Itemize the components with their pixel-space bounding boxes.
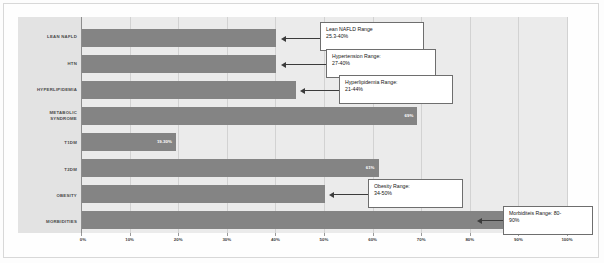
- tick-label-90: 90%: [514, 237, 523, 242]
- callout-hyperlipidemia-line2: 21-44%: [345, 86, 448, 93]
- bar-value-label-t2dm: 61%: [366, 159, 375, 177]
- tick-label-0: 0%: [80, 237, 86, 242]
- gridline-80: [470, 17, 471, 233]
- callout-lean-nafld[interactable]: Lean NAFLD Range 25.3-40%: [320, 22, 424, 51]
- tick-label-20: 20%: [174, 237, 183, 242]
- category-label-lean-nafld: LEAN NAFLD: [19, 34, 77, 40]
- bar-value-label-metabolic-syndrome: 69%: [405, 107, 414, 125]
- tick-50: [324, 233, 325, 236]
- tick-0: [81, 233, 82, 236]
- category-label-morbidities: MORBIDITIES: [19, 219, 77, 225]
- callout-obesity[interactable]: Obesity Range: 34-50%: [368, 179, 463, 208]
- plot-panel: LEAN NAFLD HTN HYPERLIPIDEMIA METABOLIC …: [18, 17, 567, 233]
- callout-morbidities-line1: Morbiditeis Range: 80-: [509, 210, 588, 217]
- category-label-hyperlipidemia: HYPERLIPIDEMIA: [19, 87, 77, 93]
- tick-60: [373, 233, 374, 236]
- category-label-obesity: OBESITY: [19, 193, 77, 199]
- leader-line-htn: [285, 64, 327, 65]
- tick-label-80: 80%: [465, 237, 474, 242]
- category-label-htn: HTN: [19, 61, 77, 67]
- callout-hypertension-line2: 27-40%: [332, 60, 431, 67]
- tick-label-40: 40%: [271, 237, 280, 242]
- bar-morbidities: [82, 211, 519, 229]
- tick-20: [178, 233, 179, 236]
- bar-value-label-t1dm: 19.30%: [157, 133, 172, 151]
- callout-hyperlipidemia[interactable]: Hyperlipidemia Range: 21-44%: [339, 75, 453, 104]
- chart-root: LEAN NAFLD HTN HYPERLIPIDEMIA METABOLIC …: [0, 0, 604, 263]
- category-label-metabolic-syndrome-line2: SYNDROME: [19, 116, 77, 122]
- tick-label-30: 30%: [222, 237, 231, 242]
- category-axis-gutter: LEAN NAFLD HTN HYPERLIPIDEMIA METABOLIC …: [18, 17, 81, 233]
- bar-htn: [82, 55, 276, 73]
- tick-40: [275, 233, 276, 236]
- bar-obesity: [82, 185, 325, 203]
- callout-hypertension[interactable]: Hypertension Range: 27-40%: [326, 49, 436, 78]
- callout-morbidities-line2: 90%: [509, 217, 588, 224]
- leader-line-morbidities: [481, 220, 504, 221]
- tick-30: [227, 233, 228, 236]
- value-axis: 0% 10% 20% 30% 40% 50% 60% 70% 80% 90% 1…: [81, 233, 567, 247]
- callout-lean-nafld-line2: 25.3-40%: [326, 33, 419, 40]
- callout-lean-nafld-line1: Lean NAFLD Range: [326, 26, 419, 33]
- leader-line-obesity: [333, 194, 369, 195]
- tick-70: [421, 233, 422, 236]
- callout-morbidities[interactable]: Morbiditeis Range: 80- 90%: [503, 206, 593, 235]
- category-label-t1dm: T1DM: [19, 140, 77, 146]
- category-label-t2dm: T2DM: [19, 167, 77, 173]
- leader-line-lean-nafld: [285, 38, 321, 39]
- tick-80: [470, 233, 471, 236]
- callout-obesity-line1: Obesity Range:: [374, 183, 458, 190]
- bar-t1dm: 19.30%: [82, 133, 176, 151]
- tick-label-60: 60%: [368, 237, 377, 242]
- bar-lean-nafld: [82, 29, 276, 47]
- bar-hyperlipidemia: [82, 81, 296, 99]
- leader-line-hyperlipidemia: [304, 90, 340, 91]
- tick-label-70: 70%: [417, 237, 426, 242]
- callout-hypertension-line1: Hypertension Range:: [332, 53, 431, 60]
- bar-t2dm: 61%: [82, 159, 379, 177]
- gridline-90: [518, 17, 519, 233]
- tick-label-10: 10%: [125, 237, 134, 242]
- gridline-100: [567, 17, 568, 233]
- callout-hyperlipidemia-line1: Hyperlipidemia Range:: [345, 79, 448, 86]
- bar-metabolic-syndrome: 69%: [82, 107, 417, 125]
- tick-10: [130, 233, 131, 236]
- tick-label-100: 100%: [561, 237, 572, 242]
- tick-label-50: 50%: [320, 237, 329, 242]
- callout-obesity-line2: 34-50%: [374, 190, 458, 197]
